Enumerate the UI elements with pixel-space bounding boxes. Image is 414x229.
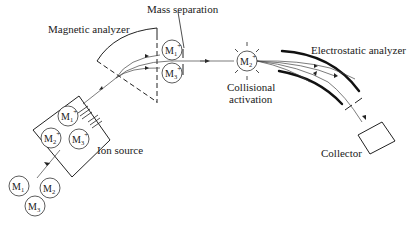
- selected-ion-m2-plus: M2+: [237, 51, 257, 71]
- source-ion-m1-plus: M1+: [58, 106, 78, 126]
- tandem-ms-diagram: M1 M2 M3 M1+ M2+ M3+ Ion source: [0, 0, 414, 229]
- extraction-grid-icon: [78, 106, 102, 128]
- separated-ion-m1-plus: M1+: [162, 40, 182, 60]
- collisional-activation-label-1: Collisional: [227, 81, 275, 93]
- separated-ion-paths: [116, 54, 207, 78]
- mass-separation-label: Mass separation: [147, 3, 219, 15]
- magnetic-analyzer-label: Magnetic analyzer: [48, 23, 130, 35]
- source-ion-m2-plus: M2+: [41, 128, 61, 148]
- ion-source-label: Ion source: [97, 144, 143, 156]
- electrostatic-analyzer-label: Electrostatic analyzer: [311, 44, 406, 56]
- sample-inlet-arrow: [37, 150, 60, 178]
- ion-beam-source-to-magnet: [83, 78, 116, 104]
- neutral-molecule-m3: M3: [25, 196, 45, 216]
- neutral-molecule-m1: M1: [9, 176, 29, 196]
- exit-slit: [345, 98, 362, 110]
- magnetic-analyzer-sector: [97, 28, 157, 103]
- beam-arrow-icon: [362, 115, 366, 120]
- source-ion-m3-plus: M3+: [69, 129, 89, 149]
- neutral-molecule-m2: M2: [40, 178, 60, 198]
- separated-ion-m3-plus: M3+: [162, 63, 182, 83]
- collector-label: Collector: [321, 147, 362, 159]
- collector-box: [358, 122, 395, 154]
- collisional-activation-label-2: activation: [229, 93, 273, 105]
